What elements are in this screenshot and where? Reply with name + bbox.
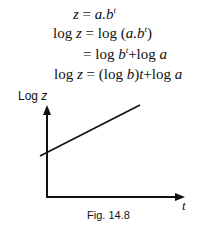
trend-line (40, 105, 140, 156)
graph (0, 0, 199, 234)
y-axis-arrow-icon (43, 105, 51, 115)
figure-caption: Fig. 14.8 (87, 209, 130, 221)
x-axis-label: t (182, 198, 186, 214)
